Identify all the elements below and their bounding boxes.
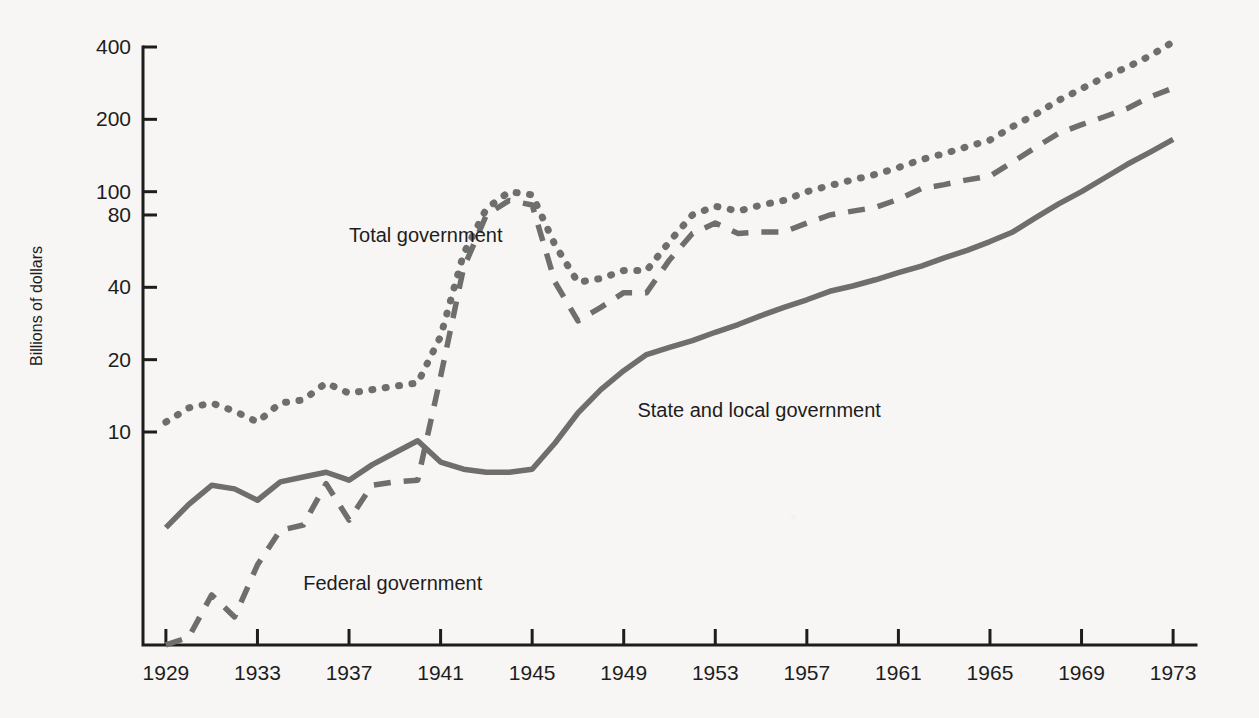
x-tick-label: 1945 <box>509 661 556 684</box>
x-tick-label: 1949 <box>600 661 647 684</box>
y-tick-label: 200 <box>96 107 131 130</box>
series-annotation-total: Total government <box>349 224 503 246</box>
line-chart: 4002001008040201019291933193719411945194… <box>0 0 1259 718</box>
y-axis-title: Billions of dollars <box>28 246 45 366</box>
x-tick-label: 1933 <box>234 661 281 684</box>
x-tick-label: 1957 <box>783 661 830 684</box>
x-tick-label: 1965 <box>967 661 1014 684</box>
x-tick-label: 1929 <box>143 661 190 684</box>
series-line-solid <box>166 139 1173 527</box>
figure-page: 4002001008040201019291933193719411945194… <box>0 0 1259 718</box>
x-tick-label: 1941 <box>417 661 464 684</box>
series-annotation-state_local: State and local government <box>637 399 881 421</box>
y-tick-label: 10 <box>108 420 131 443</box>
series-line-dotted <box>166 42 1173 422</box>
y-tick-label: 400 <box>96 35 131 58</box>
x-tick-label: 1973 <box>1150 661 1197 684</box>
y-tick-label: 40 <box>108 275 131 298</box>
annotation-layer: Total governmentFederal governmentState … <box>303 224 881 594</box>
series-layer <box>166 42 1173 645</box>
y-tick-label: 100 <box>96 180 131 203</box>
x-tick-label: 1969 <box>1058 661 1105 684</box>
axis-layer: 4002001008040201019291933193719411945194… <box>28 35 1196 684</box>
x-tick-label: 1937 <box>326 661 373 684</box>
series-annotation-federal: Federal government <box>303 572 482 594</box>
x-tick-label: 1961 <box>875 661 922 684</box>
y-tick-label: 20 <box>108 348 131 371</box>
y-tick-label: 80 <box>108 203 131 226</box>
x-tick-label: 1953 <box>692 661 739 684</box>
series-line-dashed <box>166 88 1173 645</box>
